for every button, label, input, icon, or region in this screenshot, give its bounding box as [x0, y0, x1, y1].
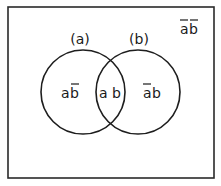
region-a-only-b: b	[70, 85, 79, 101]
region-b-only-a: a	[143, 85, 152, 101]
region-both-label: a b	[99, 85, 121, 101]
region-a-only-a: a	[61, 85, 70, 101]
region-neither-a: a	[180, 21, 189, 37]
set-b-label: (b)	[129, 31, 149, 47]
region-b-only-b: b	[152, 85, 161, 101]
venn-diagram: (a) (b) a b a b a b a b	[0, 0, 221, 186]
region-b-only-label: a b	[143, 84, 161, 101]
region-neither-b: b	[189, 21, 198, 37]
set-a-label: (a)	[70, 31, 90, 47]
region-neither-label: a b	[180, 20, 198, 37]
region-a-only-label: a b	[61, 84, 79, 101]
